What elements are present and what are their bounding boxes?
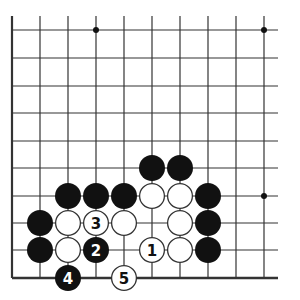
black-stone (55, 183, 81, 209)
black-stone (195, 183, 221, 209)
go-board: 32145 (0, 0, 300, 300)
white-stone (168, 211, 193, 236)
white-stone (140, 184, 165, 209)
move-number-label: 3 (91, 215, 101, 233)
black-stone (167, 155, 193, 181)
move-number-label: 4 (63, 270, 73, 288)
star-point (261, 193, 267, 199)
star-point (261, 27, 267, 33)
move-number-label: 2 (91, 242, 101, 260)
move-number-label: 1 (147, 242, 157, 260)
white-stone (112, 211, 137, 236)
white-stone (56, 238, 81, 263)
black-stone-move-2: 2 (83, 237, 109, 263)
black-stone (27, 210, 53, 236)
black-stone (83, 183, 109, 209)
black-stone (195, 210, 221, 236)
white-stone-move-3: 3 (84, 211, 109, 236)
white-stone (56, 211, 81, 236)
white-stone (168, 238, 193, 263)
white-stone-move-1: 1 (140, 238, 165, 263)
star-point (93, 27, 99, 33)
black-stone (195, 237, 221, 263)
white-stone-move-5: 5 (112, 266, 137, 291)
move-number-label: 5 (119, 270, 129, 288)
black-stone (27, 237, 53, 263)
white-stone (168, 184, 193, 209)
black-stone-move-4: 4 (55, 265, 81, 291)
grid-lines (12, 16, 278, 278)
black-stone (111, 183, 137, 209)
black-stone (139, 155, 165, 181)
